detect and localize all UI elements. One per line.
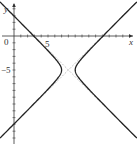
x-axis-label: x xyxy=(128,37,133,47)
y-axis-label: y xyxy=(3,4,8,14)
hyperbola-plot: y x 0 5 −5 xyxy=(0,0,137,146)
origin-label: 0 xyxy=(4,37,9,47)
y-tick-label-neg5: −5 xyxy=(1,65,11,75)
hyperbola-right-branch xyxy=(75,2,137,138)
x-tick-label-5: 5 xyxy=(45,39,50,49)
curves xyxy=(0,2,137,138)
